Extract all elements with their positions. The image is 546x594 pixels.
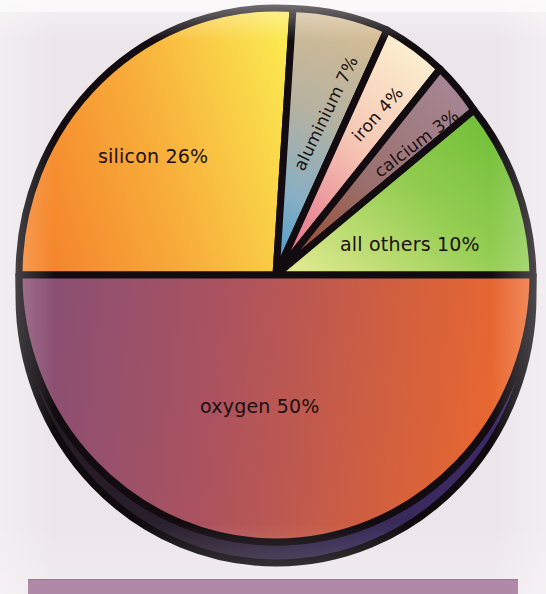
slice-silicon[interactable] xyxy=(19,8,293,275)
slice-label-all-others: all others 10% xyxy=(340,233,480,255)
bottom-rule-bar xyxy=(28,579,518,594)
slice-label-silicon: silicon 26% xyxy=(98,145,208,167)
pie-chart-figure: silicon 26% aluminium 7% iron 4% calcium… xyxy=(0,0,546,594)
slice-label-oxygen: oxygen 50% xyxy=(200,395,320,417)
pie-chart-svg: silicon 26% aluminium 7% iron 4% calcium… xyxy=(0,0,546,594)
